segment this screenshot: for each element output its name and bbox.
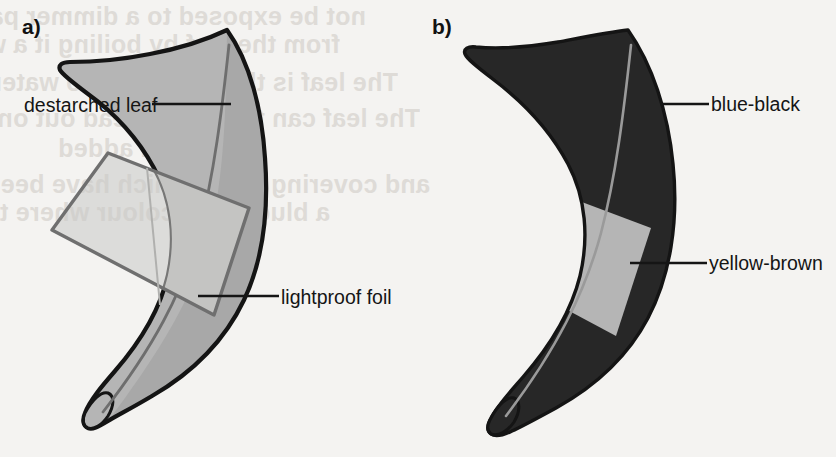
figure-artwork — [0, 0, 836, 457]
panel-a-letter: a) — [22, 15, 41, 39]
label-yellow-brown: yellow-brown — [709, 252, 823, 275]
label-lightproof-foil: lightproof foil — [281, 286, 392, 309]
panel-b-artwork — [455, 30, 675, 436]
panel-b-letter: b) — [432, 15, 452, 39]
label-destarched-leaf: destarched leaf — [24, 94, 157, 117]
label-blue-black: blue-black — [711, 93, 800, 116]
panel-a-artwork — [52, 30, 266, 429]
figure-container: not be exposed to a dimmer part of from … — [0, 0, 836, 457]
